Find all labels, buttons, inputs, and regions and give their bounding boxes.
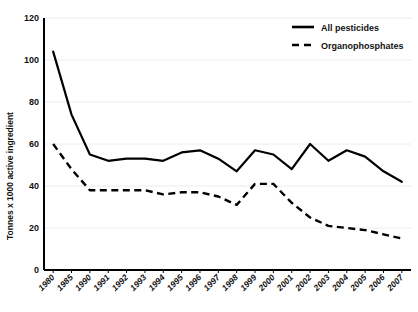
x-axis-tick-label: 1996 — [183, 272, 204, 293]
y-axis-tick-label: 100 — [24, 55, 39, 65]
x-axis-ticks-group: 1980198519901991199219931994199519961997… — [36, 270, 406, 294]
x-axis-tick-label: 1992 — [110, 272, 131, 293]
x-axis-tick-label: 2003 — [311, 272, 332, 293]
x-axis-tick-label: 2002 — [292, 272, 313, 293]
x-axis-tick-label: 2005 — [347, 272, 368, 293]
x-axis-tick-label: 2004 — [329, 272, 350, 293]
x-axis-tick-label: 2007 — [384, 271, 406, 293]
line-chart-canvas: 020406080100120 198019851990199119921993… — [0, 0, 418, 312]
y-axis-tick-label: 20 — [29, 223, 39, 233]
x-axis-tick-label: 1995 — [165, 272, 186, 293]
x-axis-tick-label: 1997 — [201, 271, 222, 292]
x-axis-tick-label: 1999 — [238, 272, 259, 293]
x-axis-tick-label: 2006 — [366, 272, 387, 293]
x-axis-tick-label: 1993 — [128, 272, 149, 293]
y-axis-tick-label: 40 — [29, 181, 39, 191]
legend: All pesticides Organophosphates — [292, 23, 404, 51]
legend-label-all-pesticides: All pesticides — [321, 23, 379, 33]
y-axis-tick-label: 60 — [29, 139, 39, 149]
legend-label-organophosphates: Organophosphates — [321, 41, 404, 51]
series-organophosphates-line — [53, 144, 402, 239]
x-axis-tick-label: 1998 — [220, 272, 241, 293]
y-axis-tick-label: 0 — [34, 265, 39, 275]
x-axis-tick-label: 1980 — [36, 272, 57, 293]
x-axis-tick-label: 2000 — [256, 272, 277, 293]
y-axis-tick-label: 80 — [29, 97, 39, 107]
x-axis-tick-label: 1991 — [91, 272, 112, 293]
x-axis-tick-label: 1990 — [73, 272, 94, 293]
y-axis-ticks-group: 020406080100120 — [24, 13, 39, 275]
chart-figure: 020406080100120 198019851990199119921993… — [0, 0, 418, 312]
x-axis-tick-label: 2001 — [274, 272, 295, 293]
x-axis-tick-label: 1994 — [146, 272, 167, 293]
y-axis-title: Tonnes x 1000 active ingredient — [5, 112, 15, 240]
series-all-pesticides-line — [53, 52, 402, 182]
x-axis-tick-label: 1985 — [54, 272, 75, 293]
y-axis-tick-label: 120 — [24, 13, 39, 23]
